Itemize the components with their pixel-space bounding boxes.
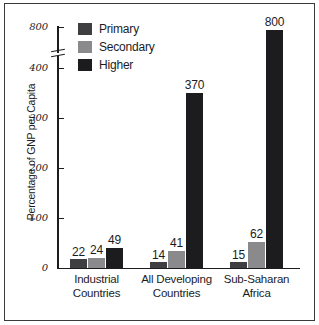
legend-label-primary: Primary xyxy=(99,22,139,36)
bar-value-subsaharan-higher: 800 xyxy=(260,15,289,29)
y-tick-label-200: 200 xyxy=(12,162,48,173)
axis-break-icon xyxy=(51,46,65,60)
bar-subsaharan-secondary xyxy=(248,242,265,268)
category-label-line2: Africa xyxy=(210,287,303,301)
bar-industrial-higher xyxy=(106,248,123,268)
plot-area: Percentage of GNP per Capita 800 400 300… xyxy=(0,0,319,325)
bar-industrial-secondary xyxy=(88,258,105,268)
legend-item-higher: Higher xyxy=(78,56,155,73)
legend-swatch-primary xyxy=(78,23,92,35)
y-tick-mark xyxy=(58,68,64,69)
y-tick-label-0: 0 xyxy=(12,262,48,273)
category-label-subsaharan: Sub-Saharan Africa xyxy=(210,273,303,300)
bar-value-developing-higher: 370 xyxy=(180,78,209,92)
legend-swatch-higher xyxy=(78,59,92,71)
legend-item-primary: Primary xyxy=(78,20,155,37)
legend-swatch-secondary xyxy=(78,41,92,53)
y-tick-mark xyxy=(58,168,64,169)
legend: Primary Secondary Higher xyxy=(78,20,155,74)
legend-item-secondary: Secondary xyxy=(78,38,155,55)
y-axis-line-lower xyxy=(57,56,59,269)
y-tick-label-100: 100 xyxy=(12,212,48,223)
chart-figure: Percentage of GNP per Capita 800 400 300… xyxy=(0,0,319,325)
bar-value-industrial-higher: 49 xyxy=(102,233,127,247)
y-tick-label-300: 300 xyxy=(12,112,48,123)
bar-subsaharan-higher xyxy=(266,30,283,268)
bar-subsaharan-primary xyxy=(230,262,247,268)
y-tick-label-800: 800 xyxy=(12,21,48,32)
y-tick-label-400: 400 xyxy=(12,62,48,73)
y-tick-mark xyxy=(58,118,64,119)
category-label-line1: Sub-Saharan xyxy=(210,273,303,287)
y-tick-mark xyxy=(58,218,64,219)
bar-developing-secondary xyxy=(168,251,185,268)
legend-label-secondary: Secondary xyxy=(99,40,155,54)
bar-developing-primary xyxy=(150,262,167,268)
y-tick-mark xyxy=(58,27,64,28)
bar-industrial-primary xyxy=(70,259,87,268)
bar-developing-higher xyxy=(186,93,203,268)
legend-label-higher: Higher xyxy=(99,58,133,72)
